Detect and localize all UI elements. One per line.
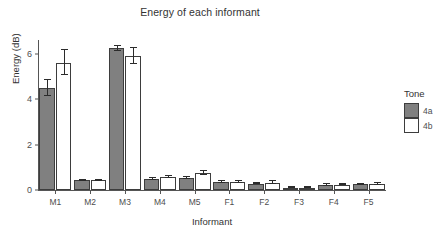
x-axis-title: Informant (38, 216, 386, 227)
bar-group: M4 (142, 38, 177, 190)
error-bar-cap (44, 79, 51, 80)
error-bar-cap (165, 175, 172, 176)
error-bar-cap (114, 50, 121, 51)
error-bar-cap (149, 179, 156, 180)
bar-group: F3 (282, 38, 317, 190)
error-bar-cap (130, 63, 137, 64)
legend-title: Tone (404, 88, 442, 99)
bar[interactable] (109, 48, 125, 190)
legend-rows: 4a4b (404, 103, 442, 133)
x-tick-mark (195, 190, 196, 194)
bar[interactable] (213, 182, 229, 190)
plot-area: Energy (dB) 0246 M1M2M3M4M5F1F2F3F4F5 (38, 38, 386, 190)
x-tick-mark (90, 190, 91, 194)
x-tick-label: M4 (154, 197, 166, 207)
error-bar (64, 50, 65, 75)
legend-swatch (404, 118, 419, 133)
bar[interactable] (195, 173, 211, 190)
bar[interactable] (369, 184, 385, 190)
bar[interactable] (91, 180, 107, 190)
x-tick-mark (369, 190, 370, 194)
chart-title: Energy of each informant (0, 6, 400, 18)
x-tick-label: F5 (364, 197, 374, 207)
error-bar-cap (288, 187, 295, 188)
x-tick-mark (229, 190, 230, 194)
error-bar-cap (339, 184, 346, 185)
bar[interactable] (230, 182, 246, 190)
x-tick-label: M1 (49, 197, 61, 207)
x-tick-mark (160, 190, 161, 194)
chart-root: Energy of each informant Energy (dB) 024… (0, 0, 442, 238)
error-bar-cap (357, 184, 364, 185)
error-bar-cap (218, 182, 225, 183)
x-tick-label: M5 (189, 197, 201, 207)
x-tick-label: F3 (294, 197, 304, 207)
error-bar-cap (44, 95, 51, 96)
error-bar-cap (95, 180, 102, 181)
error-bar-cap (235, 182, 242, 183)
error-bar-cap (304, 187, 311, 188)
bar[interactable] (353, 184, 369, 190)
error-bar-cap (114, 45, 121, 46)
bar-group: M2 (73, 38, 108, 190)
bar-group: M1 (38, 38, 73, 190)
bar-group: M3 (108, 38, 143, 190)
x-tick-label: F2 (259, 197, 269, 207)
x-tick-label: M3 (119, 197, 131, 207)
x-tick-mark (299, 190, 300, 194)
error-bar-cap (200, 170, 207, 171)
bar-group: F1 (212, 38, 247, 190)
legend-label: 4a (423, 106, 432, 116)
legend-swatch (404, 103, 419, 118)
error-bar-cap (165, 177, 172, 178)
error-bar-cap (269, 183, 276, 184)
error-bar-cap (149, 177, 156, 178)
error-bar-cap (374, 184, 381, 185)
x-tick-label: F1 (224, 197, 234, 207)
bar[interactable] (74, 180, 90, 190)
bar[interactable] (248, 184, 264, 190)
error-bar-cap (183, 176, 190, 177)
bar[interactable] (179, 178, 195, 190)
error-bar-cap (61, 49, 68, 50)
error-bar-cap (200, 174, 207, 175)
x-tick-mark (264, 190, 265, 194)
bar[interactable] (160, 177, 176, 190)
error-bar-cap (183, 178, 190, 179)
error-bar-cap (61, 74, 68, 75)
x-tick-mark (125, 190, 126, 194)
bar[interactable] (39, 88, 55, 190)
bar[interactable] (56, 63, 72, 190)
error-bar-cap (79, 180, 86, 181)
legend-label: 4b (423, 121, 432, 131)
x-tick-mark (55, 190, 56, 194)
bar-group: F5 (351, 38, 386, 190)
bar[interactable] (144, 179, 160, 190)
y-axis-title: Energy (dB) (10, 33, 21, 84)
bar[interactable] (318, 185, 334, 190)
bar[interactable] (125, 56, 141, 190)
legend-item[interactable]: 4a (404, 103, 442, 118)
bar-group: F2 (247, 38, 282, 190)
legend-item[interactable]: 4b (404, 118, 442, 133)
bar-group: F4 (316, 38, 351, 190)
legend: Tone 4a4b (404, 88, 442, 133)
error-bar-cap (323, 185, 330, 186)
x-tick-mark (334, 190, 335, 194)
error-bar-cap (269, 180, 276, 181)
x-tick-label: M2 (84, 197, 96, 207)
x-tick-label: F4 (329, 197, 339, 207)
error-bar-cap (253, 183, 260, 184)
error-bar (133, 48, 134, 64)
bar-group: M5 (177, 38, 212, 190)
error-bar-cap (130, 47, 137, 48)
error-bar (47, 80, 48, 96)
